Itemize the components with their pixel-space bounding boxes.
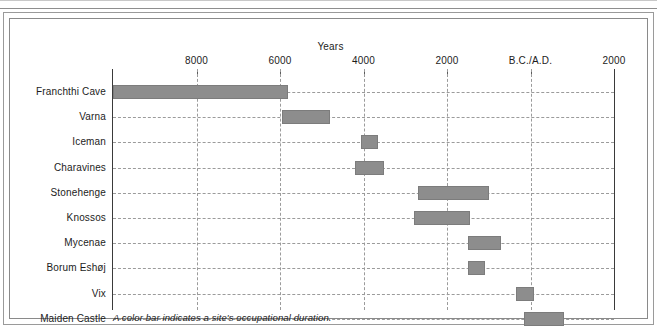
x-axis-title: Years bbox=[10, 41, 651, 52]
duration-bar bbox=[418, 186, 489, 200]
site-label-4: Stonehenge bbox=[51, 187, 106, 198]
duration-bar bbox=[355, 161, 384, 175]
duration-bar bbox=[361, 135, 378, 149]
site-label-0: Franchthi Cave bbox=[36, 86, 106, 97]
horizontal-gridline-1 bbox=[113, 117, 614, 118]
duration-bar bbox=[468, 261, 485, 275]
right-axis-line bbox=[614, 69, 615, 310]
horizontal-gridline-7 bbox=[113, 268, 614, 269]
duration-bar bbox=[113, 85, 288, 99]
site-label-8: Vix bbox=[92, 288, 106, 299]
vertical-gridline-2 bbox=[364, 69, 365, 310]
figure-outer-frame: Years 8000600040002000B.C./A.D.2000 Fran… bbox=[3, 12, 654, 325]
horizontal-gridline-4 bbox=[113, 193, 614, 194]
x-tick-label-3: 2000 bbox=[435, 55, 458, 66]
figure-inner-frame: Years 8000600040002000B.C./A.D.2000 Fran… bbox=[9, 18, 648, 319]
x-tick-label-5: 2000 bbox=[602, 55, 625, 66]
vertical-gridline-0 bbox=[197, 69, 198, 310]
x-tick-label-0: 8000 bbox=[185, 55, 208, 66]
x-tick-label-1: 6000 bbox=[268, 55, 291, 66]
vertical-gridline-4 bbox=[531, 69, 532, 310]
site-label-1: Varna bbox=[79, 111, 106, 122]
site-label-6: Mycenae bbox=[64, 237, 106, 248]
duration-bar bbox=[468, 236, 501, 250]
timeline-chart: Years 8000600040002000B.C./A.D.2000 Fran… bbox=[10, 19, 651, 322]
horizontal-gridline-6 bbox=[113, 243, 614, 244]
y-axis-line bbox=[112, 69, 113, 310]
duration-bar bbox=[524, 312, 564, 326]
site-label-5: Knossos bbox=[67, 212, 106, 223]
site-label-3: Charavines bbox=[54, 162, 106, 173]
site-label-2: Iceman bbox=[72, 136, 106, 147]
horizontal-gridline-8 bbox=[113, 294, 614, 295]
horizontal-gridline-5 bbox=[113, 218, 614, 219]
duration-bar bbox=[414, 211, 470, 225]
page-top-strip bbox=[0, 0, 657, 9]
duration-bar bbox=[282, 110, 330, 124]
site-label-9: Maiden Castle bbox=[40, 313, 106, 324]
vertical-gridline-1 bbox=[280, 69, 281, 310]
x-tick-label-2: 4000 bbox=[352, 55, 375, 66]
site-label-7: Borum Eshøj bbox=[47, 262, 106, 273]
chart-caption: A color bar indicates a site's occupatio… bbox=[113, 312, 332, 323]
x-tick-label-4: B.C./A.D. bbox=[509, 55, 552, 66]
duration-bar bbox=[516, 287, 534, 301]
